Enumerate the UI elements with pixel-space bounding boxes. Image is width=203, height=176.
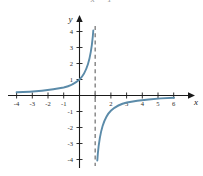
function-graph: x y -4 -3 -2 -1 2 3 4: [0, 0, 203, 176]
x-tick-label: -1: [61, 100, 67, 107]
y-tick-label: 2: [70, 60, 73, 67]
curve-left-branch: [17, 31, 94, 93]
x-tick-label: -2: [45, 100, 51, 107]
y-tick-label: -3: [68, 140, 74, 147]
x-tick-label: -4: [14, 100, 20, 107]
x-tick-label: 2: [109, 100, 112, 107]
x-axis-label: x: [193, 97, 198, 107]
y-tick-label: -1: [68, 108, 74, 115]
figure-container: x = 1 x y -4 -3: [0, 0, 203, 176]
y-tick-label: -4: [68, 156, 74, 163]
y-axis-label: y: [68, 14, 73, 24]
curve-right-branch: [97, 98, 174, 161]
x-tick-label: -3: [30, 100, 36, 107]
y-tick-label: -2: [68, 124, 74, 131]
x-tick-label: 5: [156, 100, 160, 107]
y-tick-label: 4: [70, 28, 74, 35]
x-tick-label: 6: [172, 100, 176, 107]
y-tick-label: 3: [70, 44, 74, 51]
y-axis-arrow-icon: [76, 15, 82, 22]
x-axis-group: x: [8, 92, 198, 107]
y-tick-label: 1: [70, 76, 73, 83]
